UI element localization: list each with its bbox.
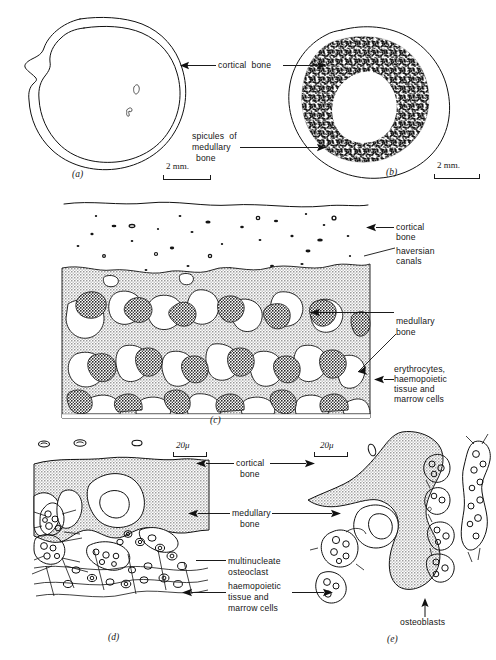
panel-d-scale-label: 20μ <box>176 440 190 450</box>
leader-e-haemopoietic-right <box>292 592 324 593</box>
leader-c-medullary-slant <box>352 332 398 378</box>
label-c-canals: canals <box>396 256 422 266</box>
label-d-cortical: cortical <box>236 458 264 468</box>
label-c-cortical-bone: bone <box>396 232 416 242</box>
label-c-cortical: cortical <box>396 222 424 232</box>
arrowhead-d-cortical <box>196 459 207 468</box>
label-d-marrow-cells: marrow cells <box>228 603 278 613</box>
panel-d-scale-bar <box>173 452 207 457</box>
leader-d-medullary-left <box>198 513 230 514</box>
leader-e-medullary-right <box>272 513 332 514</box>
panel-e-scale-label: 20μ <box>320 440 334 450</box>
arrow-e-osteoblasts <box>420 598 430 617</box>
label-d-medullary: medullary <box>232 508 271 518</box>
panel-c-id: (c) <box>210 415 221 425</box>
label-c-medullary-bone: bone <box>396 327 416 337</box>
label-spicules-medullary: medullary <box>192 142 231 152</box>
panel-a-scale-bar <box>163 175 211 180</box>
arrowhead-cortical-a <box>180 61 190 70</box>
panel-e-scale-bar <box>314 452 348 457</box>
arrowhead-d-medullary <box>188 509 199 518</box>
leader-cortical-bone-to-a <box>186 65 216 66</box>
panel-d-drawing <box>32 438 210 613</box>
panel-b-scale-label: 2 mm. <box>437 160 460 170</box>
panel-a-scale-label: 2 mm. <box>166 161 189 171</box>
label-d-multinucleate: multinucleate <box>228 556 281 566</box>
arrowhead-c-medullary <box>310 308 321 317</box>
label-spicules-bone: bone <box>196 153 216 163</box>
panel-b-scale-bar <box>434 174 480 179</box>
arrowhead-d-haemopoietic <box>182 588 193 597</box>
arrowhead-c-cortical <box>366 223 377 232</box>
leader-c-cortical <box>376 227 394 228</box>
label-c-haemopoietic: haemopoietic <box>394 374 447 384</box>
label-d-cortical-bone: bone <box>240 469 260 479</box>
arrowhead-e-cortical <box>304 459 315 468</box>
label-c-tissue-and: tissue and <box>394 384 435 394</box>
label-e-osteoblasts: osteoblasts <box>400 617 445 627</box>
label-d-medullary-bone: bone <box>240 519 260 529</box>
leader-c-erythrocytes <box>384 379 394 380</box>
arrowhead-e-haemopoietic <box>322 588 333 597</box>
label-c-medullary: medullary <box>396 316 435 326</box>
label-cortical-bone-ab: cortical bone <box>218 60 271 70</box>
bone-structure-figure: (a) 2 mm. <box>0 0 496 660</box>
label-c-erythrocytes: erythrocytes, <box>394 364 445 374</box>
panel-a-drawing <box>14 14 200 174</box>
leader-d-cortical-left <box>206 463 234 464</box>
leader-d-multinucleate <box>196 560 226 561</box>
leader-c-medullary <box>318 312 394 313</box>
label-d-haemopoietic: haemopoietic <box>228 581 281 591</box>
panel-c-drawing <box>62 196 370 418</box>
label-d-tissue-and: tissue and <box>228 592 269 602</box>
label-spicules-of: spicules of <box>192 131 237 141</box>
leader-cortical-bone-to-b <box>283 65 318 66</box>
label-c-marrow-cells: marrow cells <box>394 394 444 404</box>
panel-b-drawing <box>272 22 462 182</box>
leader-spicules-to-b <box>240 147 318 148</box>
arrowhead-spicules-b <box>316 143 326 152</box>
panel-a-id: (a) <box>72 169 83 179</box>
panel-b-id: (b) <box>386 167 397 177</box>
label-d-osteoclast: osteoclast <box>228 567 268 577</box>
leader-c-haversian <box>348 244 396 260</box>
panel-e-id: (e) <box>387 634 398 644</box>
panel-d-id: (d) <box>108 632 119 642</box>
label-c-haversian: haversian <box>396 246 435 256</box>
arrowhead-e-medullary <box>330 509 341 518</box>
leader-e-cortical-right <box>270 463 306 464</box>
arrowhead-cortical-b <box>316 61 326 70</box>
leader-d-haemopoietic-left <box>192 592 226 593</box>
